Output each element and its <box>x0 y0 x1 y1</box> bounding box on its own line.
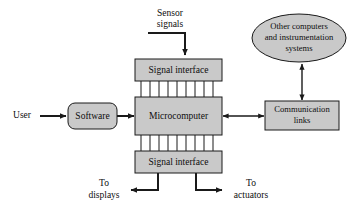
bus-top <box>141 81 213 97</box>
sensor-signals-label-line1: Sensor <box>157 8 184 18</box>
to-actuators-arrow <box>196 173 222 190</box>
other-computers-label-line2: and instrumentation <box>265 32 334 42</box>
communication-links-label-line2: links <box>294 115 311 125</box>
microcomputer-label: Microcomputer <box>149 111 209 121</box>
signal-interface-top-label: Signal interface <box>149 65 209 75</box>
diagram-canvas: Sensor signals Signal interface Microcom… <box>0 0 351 217</box>
other-computers-label-line1: Other computers <box>270 21 328 31</box>
other-computers-label-line3: systems <box>285 43 313 53</box>
sensor-signals-label-line2: signals <box>157 19 184 29</box>
to-displays-arrow <box>131 173 158 190</box>
to-actuators-label-line1: To <box>246 178 256 188</box>
sensor-signals-arrow <box>148 33 185 55</box>
to-displays-label-line1: To <box>99 178 109 188</box>
communication-links-label-line1: Communication <box>274 104 330 114</box>
to-displays-label-line2: displays <box>88 190 119 200</box>
to-actuators-label-line2: actuators <box>234 190 269 200</box>
signal-interface-bottom-label: Signal interface <box>149 157 209 167</box>
bus-bottom <box>141 135 213 151</box>
user-label: User <box>13 110 32 120</box>
software-label: Software <box>75 111 109 121</box>
block-diagram: Sensor signals Signal interface Microcom… <box>0 0 351 217</box>
